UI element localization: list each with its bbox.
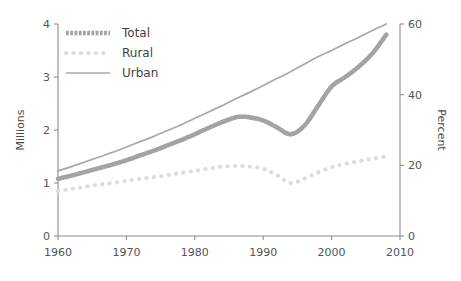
x-axis-tick-label: 1960 (44, 246, 72, 259)
x-axis-tick-label: 1980 (181, 246, 209, 259)
y-axis-right-tick-label: 20 (408, 159, 422, 172)
y-axis-right-ticks: 0204060 (400, 18, 422, 243)
series-line-urban (58, 24, 386, 171)
x-axis-tick-label: 1990 (249, 246, 277, 259)
legend-label-urban: Urban (122, 66, 158, 80)
x-axis-tick-label: 1970 (112, 246, 140, 259)
y-axis-left-tick-label: 0 (43, 230, 50, 243)
y-axis-right-tick-label: 40 (408, 89, 422, 102)
x-axis-ticks: 196019701980199020002010 (44, 236, 414, 259)
axes-group (58, 24, 400, 236)
legend-label-total: Total (121, 26, 150, 40)
legend-label-rural: Rural (122, 46, 153, 60)
chart-legend: TotalRuralUrban (66, 26, 158, 80)
y-axis-left-tick-label: 4 (43, 18, 50, 31)
data-series-group (58, 24, 386, 191)
y-axis-left-tick-label: 3 (43, 71, 50, 84)
y-axis-right-tick-label: 0 (408, 230, 415, 243)
series-line-rural (58, 157, 386, 191)
line-chart: 01234 0204060 196019701980199020002010 M… (0, 0, 461, 281)
y-axis-left-tick-label: 2 (43, 124, 50, 137)
y-axis-left-ticks: 01234 (43, 18, 58, 243)
y-axis-left-tick-label: 1 (43, 177, 50, 190)
x-axis-tick-label: 2000 (318, 246, 346, 259)
series-line-total (58, 35, 386, 179)
y-axis-left-title: Millions (14, 109, 27, 150)
y-axis-right-tick-label: 60 (408, 18, 422, 31)
chart-container: 01234 0204060 196019701980199020002010 M… (0, 0, 461, 281)
x-axis-tick-label: 2010 (386, 246, 414, 259)
y-axis-right-title: Percent (435, 109, 448, 151)
